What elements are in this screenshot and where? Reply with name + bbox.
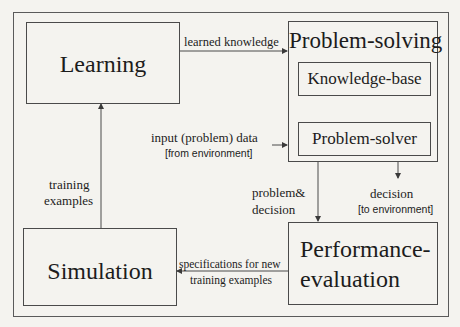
performance-label-line2: evaluation (300, 267, 400, 291)
decision-target-label: [to environment] (358, 203, 433, 215)
problem-solving-box: Problem-solving Knowledge-base Problem-s… (288, 21, 438, 162)
input-data-label: input (problem) data (151, 131, 258, 145)
input-source-label: [from environment] (165, 147, 253, 159)
performance-evaluation-box: Performance- evaluation (288, 222, 438, 305)
learning-label: Learning (27, 52, 179, 76)
learning-box: Learning (26, 22, 180, 104)
problem-decision-label-line1: problem& (252, 186, 305, 200)
training-examples-label-line2: examples (44, 194, 93, 208)
simulation-box: Simulation (23, 228, 177, 306)
decision-label: decision (370, 187, 413, 201)
problem-decision-label-line2: decision (252, 203, 295, 217)
specifications-label-line2: training examples (190, 274, 272, 287)
learned-knowledge-label: learned knowledge (184, 36, 279, 50)
problem-solver-label: Problem-solver (299, 129, 430, 149)
simulation-label: Simulation (24, 259, 176, 283)
problem-solver-box: Problem-solver (298, 122, 431, 156)
training-examples-label-line1: training (49, 178, 89, 192)
performance-label-line1: Performance- (300, 237, 431, 261)
knowledge-base-box: Knowledge-base (298, 62, 431, 96)
knowledge-base-label: Knowledge-base (299, 69, 430, 89)
problem-solving-label: Problem-solving (289, 29, 437, 52)
specifications-label-line1: specifications for new (179, 258, 281, 271)
